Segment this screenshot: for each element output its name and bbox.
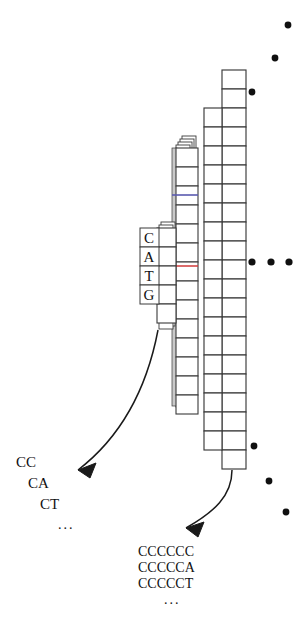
tall-column-right-outer [204,108,222,450]
list-item: CCCCCT [138,577,195,591]
list-item: CCCCCC [138,545,195,559]
long-prefix-list: CCCCCC CCCCCA CCCCCT ... [138,545,195,609]
short-prefix-list: CC CA CT ... [16,455,75,538]
tall-column-right-inner [222,70,246,469]
list-ellipsis: ... [16,518,75,532]
nucleotide-letter-g: G [140,286,158,304]
bottom-right-diagonal-dots [251,443,290,516]
nucleotide-letter-a: A [140,248,158,266]
stacked-column-front [176,148,198,414]
list-item: CT [16,497,75,512]
top-right-diagonal-dots [249,22,292,96]
short-column-left [157,228,176,323]
arrow-to-short-list [78,330,158,478]
list-ellipsis: ... [138,593,195,607]
list-item: CA [16,476,75,491]
nucleotide-letter-c: C [140,229,158,247]
nucleotide-letter-t: T [140,267,158,285]
list-item: CCCCCA [138,561,195,575]
list-item: CC [16,455,75,470]
middle-right-horizontal-dots [248,258,292,265]
arrow-to-long-list [186,470,232,537]
figure-canvas: C A T G CC CA CT ... CCCCCC CCCCCA CCCCC… [0,0,308,641]
